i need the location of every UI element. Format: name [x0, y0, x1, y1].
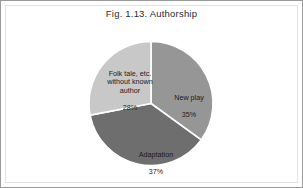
pie-chart: New play 35% Adaptation 37% Folk tale, e…	[1, 1, 302, 187]
pie-slice-folk-tale-etc-without-known-author	[89, 42, 151, 116]
pie-chart-svg	[1, 1, 303, 188]
figure-container: Fig. 1.13. Authorship New play 35% Adapt…	[0, 0, 303, 188]
pie-slice-group	[89, 42, 213, 166]
